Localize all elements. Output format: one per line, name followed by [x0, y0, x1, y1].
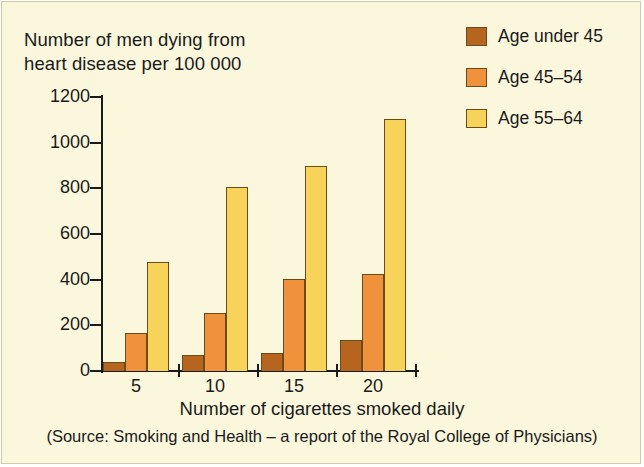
y-tick-label: 200 [34, 314, 90, 335]
y-tick-label: 600 [34, 223, 90, 244]
x-tick-label: 10 [195, 376, 235, 397]
y-tick-mark [90, 142, 101, 144]
y-axis-line [101, 95, 103, 373]
x-axis-title: Number of cigarettes smoked daily [2, 398, 641, 420]
bar-20-age-45-54 [362, 274, 384, 371]
bar-5-age-55-64 [147, 262, 169, 371]
chart-figure: Number of men dying from heart disease p… [1, 1, 641, 464]
y-tick-label: 1200 [34, 86, 90, 107]
bar-10-age-55-64 [226, 187, 248, 371]
y-tick-mark [90, 279, 101, 281]
bar-5-age-under-45 [103, 362, 125, 371]
x-tick-mark [178, 364, 180, 377]
bar-10-age-under-45 [182, 355, 204, 371]
plot-area: 020040060080010001200 5101520 [2, 2, 641, 464]
source-caption: (Source: Smoking and Health – a report o… [2, 427, 641, 446]
y-tick-mark [90, 96, 101, 98]
y-tick-label: 400 [34, 269, 90, 290]
x-tick-label: 20 [353, 376, 393, 397]
x-tick-label: 5 [116, 376, 156, 397]
x-tick-mark [257, 364, 259, 377]
bar-15-age-under-45 [261, 353, 283, 371]
y-tick-mark [90, 370, 101, 372]
bar-15-age-55-64 [305, 166, 327, 371]
bar-10-age-45-54 [204, 313, 226, 371]
y-tick-label: 800 [34, 177, 90, 198]
bar-5-age-45-54 [125, 333, 147, 371]
y-tick-label: 1000 [34, 132, 90, 153]
bar-15-age-45-54 [283, 279, 305, 371]
bar-20-age-under-45 [340, 340, 362, 371]
y-tick-mark [90, 187, 101, 189]
x-tick-mark [415, 364, 417, 377]
x-tick-label: 15 [274, 376, 314, 397]
y-tick-mark [90, 324, 101, 326]
bar-20-age-55-64 [384, 119, 406, 371]
y-tick-label: 0 [34, 360, 90, 381]
x-tick-mark [336, 364, 338, 377]
y-tick-mark [90, 233, 101, 235]
